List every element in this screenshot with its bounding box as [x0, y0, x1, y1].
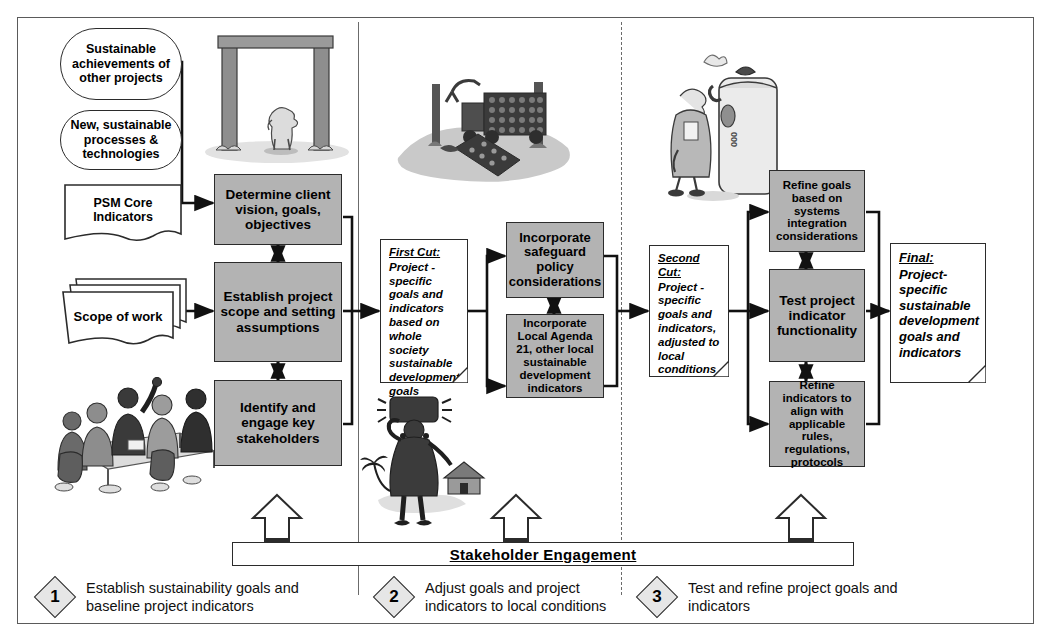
legend-diamond-2: 2 — [371, 574, 417, 620]
legend-diamond-1: 1 — [32, 574, 78, 620]
legend-item-3: 3 Test and refine project goals and indi… — [634, 574, 934, 620]
process-determine-client-vision[interactable]: Determine client vision, goals, objectiv… — [214, 174, 342, 245]
legend-item-2: 2 Adjust goals and project indicators to… — [371, 574, 626, 620]
note-second-cut-body: Project - specific goals and indicators,… — [658, 281, 720, 378]
legend-text-1: Establish sustainability goals and basel… — [86, 579, 332, 615]
input-scope-of-work-label: Scope of work — [74, 309, 163, 324]
process-refine-indicators-rules[interactable]: Refine indicators to align with applicab… — [769, 381, 865, 467]
legend-diamond-3: 3 — [634, 574, 680, 620]
legend-text-2: Adjust goals and project indicators to l… — [425, 579, 626, 615]
process-incorporate-safeguard-policy-label: Incorporate safeguard policy considerati… — [509, 231, 601, 289]
process-refine-indicators-rules-label: Refine indicators to align with applicab… — [774, 379, 860, 469]
legend-text-3: Test and refine project goals and indica… — [688, 579, 934, 615]
process-test-project-indicator-functionality-label: Test project indicator functionality — [774, 293, 860, 338]
note-first-cut-body: Project - specific goals and indicators … — [389, 261, 459, 399]
note-first-cut: First Cut: Project - specific goals and … — [380, 239, 468, 383]
note-final-output-body: Project-specific sustainable development… — [899, 267, 977, 361]
stakeholder-engagement-label: Stakeholder Engagement — [450, 546, 637, 563]
note-final-output-heading: Final: — [899, 250, 934, 265]
process-refine-goals-systems-integration-label: Refine goals based on systems integratio… — [774, 179, 860, 243]
input-new-processes-label: New, sustainable processes & technologie… — [61, 118, 181, 162]
legend-number-3: 3 — [634, 574, 680, 620]
input-sustainable-achievements-label: Sustainable achievements of other projec… — [61, 42, 181, 86]
process-establish-project-scope-label: Establish project scope and setting assu… — [219, 289, 337, 334]
process-incorporate-local-agenda-21[interactable]: Incorporate Local Agenda 21, other local… — [506, 314, 604, 398]
process-identify-stakeholders[interactable]: Identify and engage key stakeholders — [214, 380, 342, 466]
legend-item-1: 1 Establish sustainability goals and bas… — [32, 574, 332, 620]
note-second-cut: Second Cut: Project - specific goals and… — [649, 245, 729, 377]
note-final-output: Final: Project-specific sustainable deve… — [890, 243, 986, 383]
stakeholder-engagement-band: Stakeholder Engagement — [232, 542, 854, 566]
process-refine-goals-systems-integration[interactable]: Refine goals based on systems integratio… — [769, 170, 865, 252]
legend-number-2: 2 — [371, 574, 417, 620]
input-new-processes: New, sustainable processes & technologie… — [60, 110, 182, 170]
process-incorporate-safeguard-policy[interactable]: Incorporate safeguard policy considerati… — [506, 222, 604, 298]
note-second-cut-heading: Second Cut: — [658, 252, 700, 278]
process-identify-stakeholders-label: Identify and engage key stakeholders — [219, 400, 337, 445]
process-determine-client-vision-label: Determine client vision, goals, objectiv… — [219, 187, 337, 232]
legend-number-1: 1 — [32, 574, 78, 620]
process-test-project-indicator-functionality[interactable]: Test project indicator functionality — [769, 269, 865, 362]
input-scope-of-work: Scope of work — [58, 276, 188, 354]
input-psm-core-indicators: PSM Core Indicators — [64, 184, 182, 245]
stage-divider-1 — [358, 22, 359, 595]
process-incorporate-local-agenda-21-label: Incorporate Local Agenda 21, other local… — [511, 317, 599, 394]
note-first-cut-heading: First Cut: — [389, 246, 440, 258]
input-sustainable-achievements: Sustainable achievements of other projec… — [60, 28, 182, 100]
stage-divider-2 — [621, 22, 622, 595]
diagram-canvas: 000 — [0, 0, 1044, 641]
process-establish-project-scope[interactable]: Establish project scope and setting assu… — [214, 262, 342, 362]
input-psm-core-indicators-label: PSM Core Indicators — [64, 196, 182, 224]
